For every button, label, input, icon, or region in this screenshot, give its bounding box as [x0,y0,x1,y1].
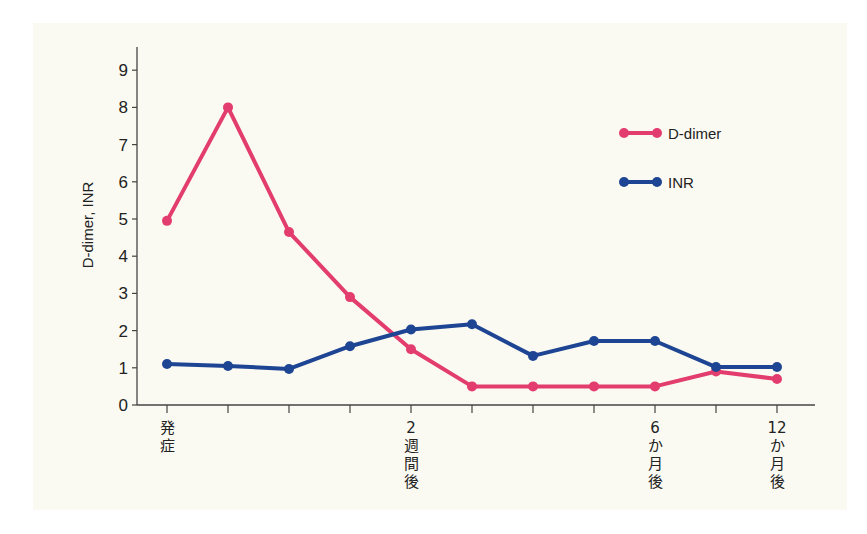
legend-label-inr: INR [668,174,694,191]
x-tick-label: 6 [650,419,660,437]
data-point-inr [162,359,172,369]
data-point-d-dimer [284,227,294,237]
data-point-inr [528,351,538,361]
data-point-d-dimer [772,374,782,384]
data-point-d-dimer [162,216,172,226]
data-point-inr [345,341,355,351]
x-tick-label: か [770,437,785,455]
data-point-inr [772,362,782,372]
x-tick-label: 後 [404,473,419,491]
data-point-inr [467,319,477,329]
y-tick-label: 2 [119,322,128,341]
x-tick-label: 後 [648,473,663,491]
x-tick-label: 週 [404,437,419,455]
legend-marker [619,177,629,187]
y-tick-label: 8 [119,98,128,117]
data-point-inr [223,361,233,371]
data-point-d-dimer [528,381,538,391]
x-tick-label: 月 [770,455,785,473]
x-tick-label: 間 [404,455,419,473]
data-point-d-dimer [589,381,599,391]
y-tick-label: 1 [119,359,128,378]
legend-label-d-dimer: D-dimer [668,125,721,142]
data-point-d-dimer [406,344,416,354]
data-point-inr [406,324,416,334]
series-line-inr [167,324,777,369]
data-point-d-dimer [650,381,660,391]
x-tick-label: 2 [406,419,416,437]
y-tick-label: 7 [119,136,128,155]
y-tick-label: 3 [119,284,128,303]
data-point-inr [711,362,721,372]
data-point-d-dimer [223,102,233,112]
legend-marker [652,128,662,138]
line-chart: 0123456789D-dimer, INR発症2週間後6か月後12か月後D-d… [0,0,867,534]
data-point-inr [589,336,599,346]
data-point-d-dimer [467,381,477,391]
x-tick-label: 症 [160,437,175,455]
y-axis-title: D-dimer, INR [79,182,96,269]
x-tick-label: 発 [160,419,175,437]
x-tick-label: 月 [648,455,663,473]
legend-marker [652,177,662,187]
y-tick-label: 0 [119,396,128,415]
data-point-inr [284,364,294,374]
x-tick-label: か [648,437,663,455]
y-tick-label: 6 [119,173,128,192]
data-point-d-dimer [345,292,355,302]
x-tick-label: 後 [770,473,785,491]
x-tick-label: 12 [767,419,786,437]
y-tick-label: 4 [119,247,128,266]
data-point-inr [650,336,660,346]
y-tick-label: 5 [119,210,128,229]
y-tick-label: 9 [119,61,128,80]
legend-marker [619,128,629,138]
series-line-d-dimer [167,107,777,386]
